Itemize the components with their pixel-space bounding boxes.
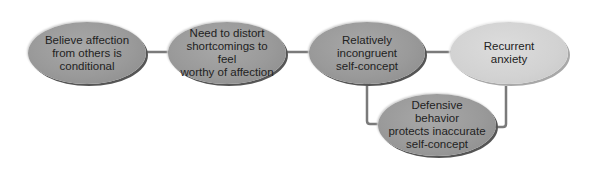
node-recurrent-anxiety: Recurrent anxiety (450, 22, 568, 84)
node-label-line: Need to distort (178, 27, 276, 40)
node-label-line: incongruent (336, 47, 398, 60)
node-label-line: Relatively (336, 34, 398, 47)
flowchart-diagram: Believe affection from others is conditi… (0, 0, 597, 170)
node-label-line: anxiety (484, 53, 535, 66)
node-label: Need to distort shortcomings to feel wor… (178, 27, 276, 79)
node-label-line: Believe affection (45, 34, 129, 47)
node-need-to-distort-shortcomings: Need to distort shortcomings to feel wor… (168, 22, 286, 84)
node-label: Believe affection from others is conditi… (45, 34, 129, 73)
node-label-line: shortcomings to feel (178, 40, 276, 66)
node-label: Relatively incongruent self-concept (336, 34, 398, 73)
node-label-line: Recurrent (484, 40, 535, 53)
node-label-line: self-concept (388, 138, 486, 151)
node-label-line: worthy of affection (178, 66, 276, 79)
node-incongruent-self-concept: Relatively incongruent self-concept (309, 22, 425, 84)
node-label-line: self-concept (336, 60, 398, 73)
node-label-line: from others is (45, 47, 129, 60)
node-believe-affection-conditional: Believe affection from others is conditi… (28, 22, 146, 84)
node-label: Defensive behavior protects inaccurate s… (388, 99, 486, 151)
node-label-line: Defensive behavior (388, 99, 486, 125)
node-label-line: conditional (45, 60, 129, 73)
node-label-line: protects inaccurate (388, 125, 486, 138)
node-defensive-behavior: Defensive behavior protects inaccurate s… (378, 94, 496, 156)
node-label: Recurrent anxiety (484, 40, 535, 66)
